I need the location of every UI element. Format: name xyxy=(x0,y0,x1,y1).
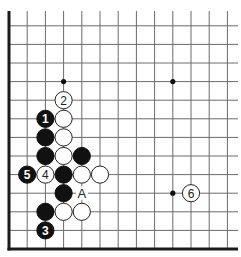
move-number: 6 xyxy=(188,187,195,201)
white-stone-4: 4 xyxy=(37,166,54,183)
move-number: 1 xyxy=(42,112,49,126)
white-stone xyxy=(55,110,72,127)
star-point xyxy=(170,191,175,196)
black-stone xyxy=(37,129,54,146)
black-stone xyxy=(73,147,90,164)
white-stone xyxy=(73,166,90,183)
white-stone xyxy=(73,203,90,220)
black-stone xyxy=(55,185,72,202)
black-stone-5: 5 xyxy=(19,166,36,183)
star-point xyxy=(170,79,175,84)
move-number: 2 xyxy=(60,94,67,108)
white-stone-2: 2 xyxy=(55,92,72,109)
white-stone xyxy=(55,203,72,220)
go-board: 123456 A xyxy=(0,0,241,257)
point-marker: A xyxy=(77,186,86,201)
black-stone-3: 3 xyxy=(37,222,54,239)
white-stone xyxy=(55,147,72,164)
move-number: 4 xyxy=(42,168,49,182)
markers: A xyxy=(76,186,88,201)
white-stone xyxy=(55,129,72,146)
move-number: 3 xyxy=(42,224,49,238)
white-stone xyxy=(91,166,108,183)
black-stone xyxy=(55,166,72,183)
black-stone xyxy=(37,147,54,164)
move-number: 5 xyxy=(24,168,31,182)
white-stone-6: 6 xyxy=(182,185,199,202)
black-stone xyxy=(37,203,54,220)
star-point xyxy=(61,79,66,84)
black-stone-1: 1 xyxy=(37,110,54,127)
